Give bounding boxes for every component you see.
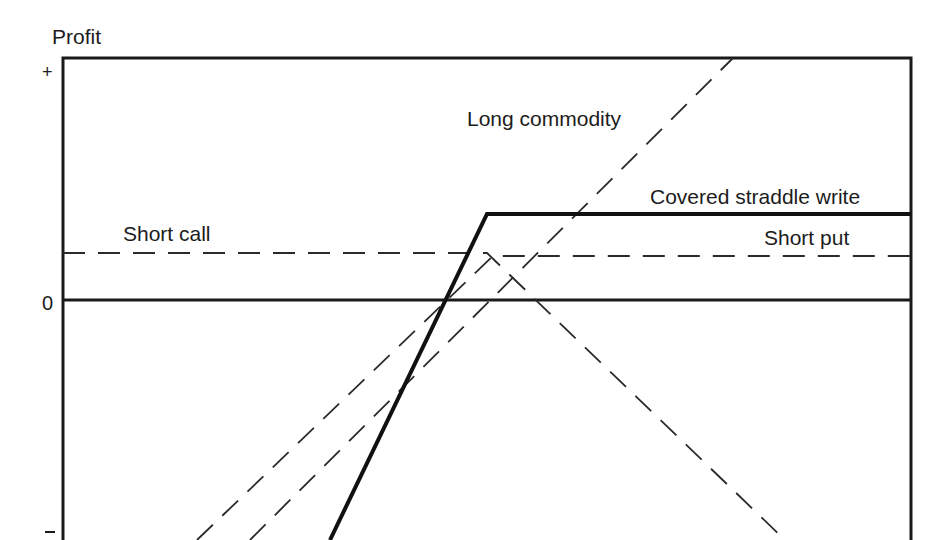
short-call-line — [63, 253, 785, 540]
covered-straddle-write-line — [330, 214, 911, 540]
payoff-diagram — [0, 0, 947, 540]
tick-zero: 0 — [42, 293, 53, 313]
label-long-commodity: Long commodity — [467, 108, 621, 129]
label-covered-straddle-write: Covered straddle write — [650, 186, 860, 207]
y-axis-title: Profit — [52, 26, 101, 47]
label-short-put: Short put — [764, 227, 849, 248]
tick-plus: + — [42, 63, 53, 81]
label-short-call: Short call — [123, 223, 211, 244]
